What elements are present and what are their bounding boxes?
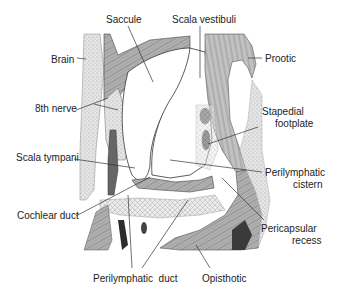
label-saccule: Saccule	[106, 14, 142, 25]
label-opisthotic: Opisthotic	[202, 273, 246, 284]
footplate-mesh	[196, 105, 218, 170]
label-footplate: footplate	[275, 118, 313, 129]
label-brain: Brain	[51, 54, 74, 65]
inner-ear-illustration	[0, 0, 348, 299]
label-stapedial: Stapedial	[262, 106, 304, 117]
label-recess: recess	[292, 235, 321, 246]
label-scala-vestibuli: Scala vestibuli	[172, 14, 236, 25]
label-pericapsular: Pericapsular	[261, 223, 317, 234]
lower-mesh	[100, 195, 225, 218]
cochlear-duct-band	[132, 176, 214, 192]
label-prootic: Prootic	[265, 53, 296, 64]
label-perilymphatic: Perilymphatic	[265, 167, 325, 178]
lower-left-bone	[84, 205, 112, 250]
label-perilymphatic-duct: Perilymphatic duct	[93, 273, 177, 284]
label-cistern: cistern	[293, 179, 322, 190]
lower-dark-body	[118, 220, 128, 250]
left-dark-column	[108, 130, 118, 195]
lower-small-dark	[141, 222, 147, 234]
label-8th-nerve: 8th nerve	[35, 103, 77, 114]
label-cochlear-duct: Cochlear duct	[17, 210, 79, 221]
label-scala-tympani: Scala tympani	[16, 152, 79, 163]
